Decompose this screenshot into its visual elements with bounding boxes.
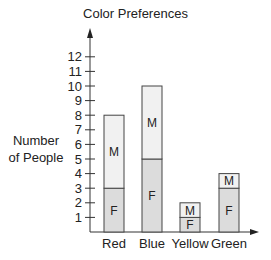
x-category-label: Red [102, 236, 126, 251]
bar-segment-label: F [148, 189, 155, 203]
x-category-label: Blue [139, 236, 165, 251]
bar-segment-label: M [224, 174, 234, 188]
bar-segment-label: M [147, 116, 157, 130]
bar-segment-label: F [225, 204, 232, 218]
x-axis-arrow-icon [250, 229, 259, 235]
bar-segment-label: M [185, 204, 195, 218]
y-tick-label: 8 [75, 108, 82, 123]
bar-segment-label: M [109, 145, 119, 159]
y-tick-label: 1 [75, 210, 82, 225]
y-tick-label: 9 [75, 93, 82, 108]
bar-segment-label: F [186, 218, 193, 232]
bar-segment-label: F [110, 204, 117, 218]
x-category-label: Yellow [171, 236, 209, 251]
y-tick-label: 11 [69, 64, 83, 79]
stacked-bar-chart: 123456789101112FMRedFMBlueFMYellowFMGree… [0, 0, 271, 260]
y-tick-label: 12 [68, 49, 82, 64]
y-tick-label: 10 [68, 79, 82, 94]
y-tick-label: 3 [75, 181, 82, 196]
y-tick-label: 2 [75, 195, 82, 210]
y-tick-label: 6 [75, 137, 82, 152]
y-tick-label: 4 [75, 166, 82, 181]
y-tick-label: 7 [75, 122, 82, 137]
y-axis-arrow-icon [87, 28, 93, 38]
x-category-label: Green [211, 236, 247, 251]
y-tick-label: 5 [75, 152, 82, 167]
